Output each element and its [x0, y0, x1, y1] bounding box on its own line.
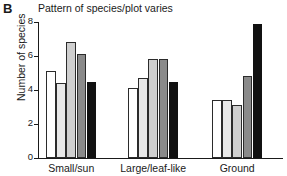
y-tick-mark [34, 158, 38, 159]
bar [148, 59, 158, 158]
bar [212, 100, 222, 158]
bar [138, 78, 148, 158]
y-tick-label: 2 [28, 118, 33, 128]
bar [128, 88, 138, 158]
y-tick-label: 6 [28, 50, 33, 60]
bar [243, 76, 253, 158]
y-axis-line [38, 22, 39, 158]
y-tick-label: 0 [28, 152, 33, 162]
bar [77, 54, 87, 158]
y-tick-mark [34, 124, 38, 125]
x-axis-group-label: Ground [187, 163, 287, 174]
bar [66, 42, 76, 158]
bar [46, 71, 56, 158]
y-tick-mark [34, 22, 38, 23]
bar [169, 82, 179, 159]
bar [87, 82, 97, 159]
bar [253, 24, 263, 158]
panel-letter: B [3, 2, 12, 15]
bar [232, 105, 242, 158]
y-axis-label: Number of species [16, 2, 27, 112]
y-tick-mark [34, 90, 38, 91]
y-tick-label: 4 [28, 84, 33, 94]
y-tick-mark [34, 56, 38, 57]
plot-area: 02468 Small/sunLarge/leaf-likeGround [38, 22, 285, 158]
bar [222, 100, 232, 158]
bar [56, 83, 66, 158]
y-tick-label: 8 [28, 16, 33, 26]
chart-title: Pattern of species/plot varies [38, 3, 173, 14]
figure-panel-b: B Pattern of species/plot varies Number … [0, 0, 287, 176]
x-axis-line [38, 158, 283, 159]
bar [159, 59, 169, 158]
